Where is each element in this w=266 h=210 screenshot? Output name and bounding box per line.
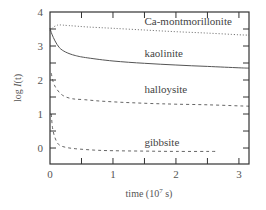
- y-tick-label: 1: [38, 108, 44, 120]
- series-label-gibbsite: gibbsite: [144, 136, 179, 148]
- series-labels: Ca-montmorillonitekaolinitehalloysitegib…: [144, 15, 231, 148]
- series-label-halloysite: halloysite: [144, 83, 187, 95]
- y-tick-label: 0: [38, 142, 44, 154]
- line-chart: 012301234 Ca-montmorillonitekaolinitehal…: [0, 0, 266, 210]
- series-label-ca-montmorillonite: Ca-montmorillonite: [144, 15, 231, 27]
- y-tick-label: 4: [38, 6, 44, 18]
- x-tick-label: 2: [173, 168, 179, 180]
- x-tick-label: 3: [236, 168, 242, 180]
- tick-labels: 012301234: [38, 6, 243, 180]
- curve-gibbsite: [51, 114, 217, 151]
- x-tick-label: 1: [110, 168, 116, 180]
- y-tick-label: 2: [38, 74, 44, 86]
- x-tick-label: 0: [47, 168, 53, 180]
- x-axis-label: time (107 s): [126, 187, 173, 200]
- y-axis-label: log I(t): [12, 74, 24, 102]
- series-label-kaolinite: kaolinite: [144, 47, 183, 59]
- y-tick-label: 3: [38, 40, 44, 52]
